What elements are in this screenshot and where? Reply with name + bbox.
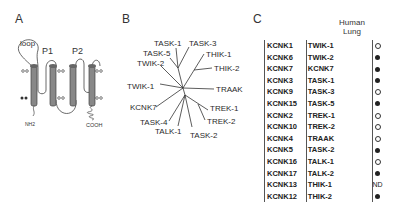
p2-annotation: P2: [72, 46, 83, 56]
gene-name: KCNK3: [264, 75, 304, 87]
open-circle-icon: [375, 89, 381, 95]
gene-name: KCNK9: [264, 86, 304, 98]
table-row: KCNK6TWIK-2: [264, 52, 394, 64]
expression-marker: [361, 110, 394, 122]
protein-name: TASK-1: [304, 75, 361, 87]
open-circle-icon: [375, 136, 381, 142]
protein-name: TWIK-1: [304, 40, 361, 52]
gene-name: KCNK12: [264, 191, 304, 203]
tree-leaf-thik1: THIK-1: [206, 50, 232, 59]
tree-leaf-traak: TRAAK: [216, 85, 243, 94]
gene-name: KCNK10: [264, 121, 304, 133]
gene-name: KCNK7: [264, 63, 304, 75]
protein-name: TALK-2: [304, 168, 361, 180]
phylogenetic-tree: TASK-1 TASK-3 TASK-5 THIK-1 TWIK-2 THIK-…: [110, 0, 250, 150]
table-row: KCNK3TASK-1: [264, 75, 394, 87]
tree-leaf-twik2: TWIK-2: [137, 59, 165, 68]
tree-leaf-trek1: TREK-1: [210, 104, 239, 113]
header-line-2: Lung: [330, 27, 374, 36]
table-row: KCNK15TASK-5: [264, 98, 394, 110]
protein-name: TWIK-2: [304, 52, 361, 64]
gene-name: KCNK17: [264, 168, 304, 180]
open-circle-icon: [375, 124, 381, 130]
expression-marker: [361, 98, 394, 110]
protein-name: THIK-2: [304, 191, 361, 203]
filled-circle-icon: [375, 194, 380, 199]
gene-name: KCNK15: [264, 98, 304, 110]
tree-leaf-task1: TASK-1: [154, 39, 182, 48]
expression-table: KCNK1TWIK-1KCNK6TWIK-2KCNK7KCNK7KCNK3TAS…: [264, 40, 394, 202]
table-row: KCNK16TALK-1: [264, 156, 394, 168]
expression-marker: [361, 63, 394, 75]
human-lung-header: Human Lung: [330, 18, 374, 36]
tree-leaf-task4: TASK-4: [140, 118, 168, 127]
protein-name: TRAAK: [304, 133, 361, 145]
p1-annotation: P1: [42, 46, 53, 56]
gene-name: KCNK13: [264, 179, 304, 191]
protein-name: TASK-2: [304, 144, 361, 156]
gene-name: KCNK1: [264, 40, 304, 52]
expression-marker: [361, 52, 394, 64]
gene-name: KCNK6: [264, 52, 304, 64]
tree-leaf-thik2: THIK-2: [214, 64, 240, 73]
expression-marker: [361, 121, 394, 133]
table-row: KCNK10TREK-2: [264, 121, 394, 133]
table-row: KCNK13THIK-1ND: [264, 179, 394, 191]
table-row: KCNK1TWIK-1: [264, 40, 394, 52]
open-circle-icon: [375, 159, 381, 165]
open-circle-icon: [375, 113, 381, 119]
protein-name: THIK-1: [304, 179, 361, 191]
expression-marker: [361, 86, 394, 98]
cooh-annotation: COOH: [86, 122, 103, 128]
expression-marker: [361, 144, 394, 156]
tree-leaf-task5: TASK-5: [143, 49, 171, 58]
expression-marker: [361, 40, 394, 52]
table-row: KCNK4TRAAK: [264, 133, 394, 145]
protein-name: TREK-1: [304, 110, 361, 122]
expression-marker: ND: [361, 179, 394, 191]
tree-leaf-kcnk7: KCNK7: [130, 103, 157, 112]
panel-c-label: C: [253, 12, 262, 26]
table-row: KCNK9TASK-3: [264, 86, 394, 98]
nh2-annotation: NH2: [25, 121, 35, 127]
protein-name: TALK-1: [304, 156, 361, 168]
gene-name: KCNK16: [264, 156, 304, 168]
protein-name: KCNK7: [304, 63, 361, 75]
expression-marker: [361, 75, 394, 87]
gene-name: KCNK5: [264, 144, 304, 156]
expression-marker: [361, 168, 394, 180]
table-row: KCNK12THIK-2: [264, 191, 394, 203]
table-row: KCNK5TASK-2: [264, 144, 394, 156]
filled-circle-icon: [375, 101, 380, 106]
tree-leaf-trek2: TREK-2: [207, 117, 236, 126]
tree-leaf-twik1: TWIK-1: [127, 82, 155, 91]
tree-leaf-task3: TASK-3: [189, 39, 217, 48]
loop-annotation: loop: [20, 39, 36, 48]
open-circle-icon: [375, 43, 381, 49]
table-row: KCNK17TALK-2: [264, 168, 394, 180]
table-row: KCNK7KCNK7: [264, 63, 394, 75]
filled-circle-icon: [375, 171, 380, 176]
tree-leaf-talk1: TALK-1: [155, 127, 182, 136]
tree-leaf-task2: TASK-2: [190, 131, 218, 140]
table-row: KCNK2TREK-1: [264, 110, 394, 122]
gene-name: KCNK4: [264, 133, 304, 145]
expression-marker: [361, 156, 394, 168]
expression-marker: [361, 191, 394, 203]
not-determined-label: ND: [373, 181, 383, 188]
protein-name: TREK-2: [304, 121, 361, 133]
header-line-1: Human: [330, 18, 374, 27]
channel-topology-diagram: loop P1 P2 NH2 COOH: [0, 0, 125, 140]
filled-circle-icon: [375, 78, 380, 83]
protein-name: TASK-5: [304, 98, 361, 110]
filled-circle-icon: [375, 55, 380, 60]
filled-circle-icon: [375, 67, 380, 72]
expression-marker: [361, 133, 394, 145]
gene-name: KCNK2: [264, 110, 304, 122]
filled-circle-icon: [375, 148, 380, 153]
protein-name: TASK-3: [304, 86, 361, 98]
